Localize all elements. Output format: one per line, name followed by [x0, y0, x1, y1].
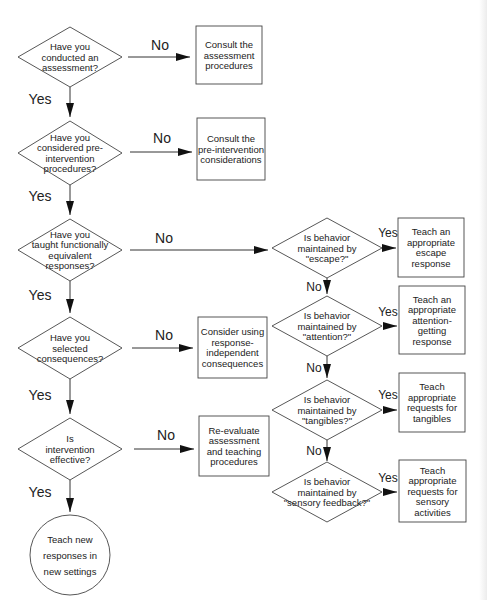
node-text-line: Is — [66, 433, 74, 444]
node-text-line: Teach an — [412, 226, 451, 237]
edge-d2-b2: No — [130, 130, 192, 156]
arrowhead-icon — [178, 148, 192, 156]
edge-e2-e3: No — [306, 356, 331, 378]
edge-label-yes: Yes — [29, 91, 52, 107]
node-text-line: appropriate — [408, 304, 456, 315]
edge-label-no: No — [151, 37, 169, 53]
edge-label-no: No — [157, 427, 175, 443]
edge-d1-d2: Yes — [29, 87, 74, 117]
node-d4: Have youselectedconsequences? — [18, 317, 122, 379]
node-text-line: "tangibles?" — [302, 415, 352, 426]
node-text-line: response- — [211, 337, 253, 348]
node-text-line: attention- — [412, 315, 452, 326]
edge-d3-d4: Yes — [29, 281, 74, 313]
node-e1: Is behaviormaintained by"escape?" — [272, 218, 382, 278]
node-text-line: assessment? — [42, 62, 98, 73]
arrowhead-icon — [66, 201, 74, 215]
node-r1: Teach anappropriateescaperesponse — [398, 218, 464, 277]
edge-label-no: No — [155, 327, 173, 343]
node-text-line: considered pre- — [37, 142, 103, 153]
node-e4: Is behaviormaintained by"sensory feedbac… — [272, 462, 382, 522]
node-text-line: intervention — [45, 153, 94, 164]
arrowhead-icon — [382, 244, 396, 252]
node-text-line: activities — [414, 507, 451, 518]
node-text-line: getting — [418, 325, 447, 336]
node-text-line: sensory — [416, 496, 450, 507]
node-b5: Re-evaluateassessmentand teachingprocedu… — [199, 416, 269, 476]
node-text-line: Teach — [419, 381, 444, 392]
edge-label-yes: Yes — [378, 388, 398, 402]
node-text-line: maintained by — [297, 487, 356, 498]
arrowhead-icon — [383, 488, 397, 496]
edge-d4-d5: Yes — [29, 379, 74, 414]
node-text-line: responses? — [45, 260, 94, 271]
arrowhead-icon — [66, 103, 74, 117]
node-text-line: independent — [206, 347, 259, 358]
node-text-line: taught functionally — [32, 239, 109, 250]
node-text-line: appropriate — [407, 237, 455, 248]
node-d2: Have youconsidered pre-interventionproce… — [18, 121, 122, 185]
arrowhead-icon — [66, 498, 74, 512]
edge-d5-b5: No — [134, 427, 194, 453]
node-r4: Teachappropriaterequests forsensoryactiv… — [399, 460, 466, 522]
node-text-line: assessment — [209, 435, 260, 446]
flowchart: Have youconducted anassessment?Consult t… — [0, 0, 487, 600]
node-text-line: Is behavior — [304, 310, 350, 321]
node-text-line: maintained by — [297, 321, 356, 332]
node-b4: Consider usingresponse-independentconseq… — [198, 317, 267, 378]
edge-label-yes: Yes — [29, 188, 52, 204]
arrowhead-icon — [323, 447, 331, 461]
node-e3: Is behaviormaintained by"tangibles?" — [272, 380, 382, 440]
node-d3: Have youtaught functionallyequivalentres… — [18, 219, 122, 281]
edge-d3-e1: No — [130, 230, 268, 254]
node-d1: Have youconducted anassessment? — [18, 27, 122, 87]
edge-label-yes: Yes — [378, 226, 398, 240]
edge-label-no: No — [306, 280, 322, 294]
node-text-line: "attention?" — [303, 331, 351, 342]
node-text-line: Consult the — [205, 39, 253, 50]
node-text-line: Teach an — [413, 294, 452, 305]
arrowhead-icon — [66, 299, 74, 313]
node-text-line: "escape?" — [306, 253, 349, 264]
node-text-line: new settings — [44, 566, 97, 577]
node-b2: Consult thepre-interventionconsideration… — [197, 118, 265, 180]
node-text-line: conducted an — [41, 52, 98, 63]
node-r3: Teachappropriaterequests fortangibles — [399, 373, 465, 432]
node-text-line: Have you — [50, 132, 90, 143]
edge-e3-e4: No — [306, 440, 331, 461]
node-text-line: "sensory feedback?" — [284, 497, 371, 508]
edge-d2-d3: Yes — [29, 185, 74, 215]
node-text-line: Have you — [50, 332, 90, 343]
arrowhead-icon — [254, 246, 268, 254]
node-text-line: requests for — [407, 402, 457, 413]
node-text-line: Is behavior — [304, 476, 350, 487]
node-text-line: effective? — [50, 454, 91, 465]
edge-label-yes: Yes — [29, 387, 52, 403]
page-edge-shadow — [479, 0, 487, 600]
node-d5: Isinterventioneffective? — [18, 418, 122, 480]
edge-label-no: No — [306, 361, 322, 375]
node-text-line: responses in — [43, 550, 97, 561]
node-text-line: procedures? — [44, 163, 97, 174]
edge-d4-b4: No — [132, 327, 193, 352]
node-r2: Teach anappropriateattention-gettingresp… — [399, 286, 465, 354]
node-text-line: Consult the — [207, 133, 255, 144]
edge-label-no: No — [306, 444, 322, 458]
edge-label-yes: Yes — [378, 305, 398, 319]
arrowhead-icon — [176, 53, 190, 61]
edge-d5-c1: Yes — [29, 480, 74, 512]
node-text-line: appropriate — [408, 392, 456, 403]
arrowhead-icon — [179, 344, 193, 352]
node-text-line: escape — [416, 247, 447, 258]
node-b1: Consult theassessmentprocedures — [196, 26, 262, 84]
node-text-line: appropriate — [408, 475, 456, 486]
node-text-line: requests for — [407, 486, 457, 497]
node-text-line: intervention — [45, 444, 94, 455]
edge-e1-e2: No — [306, 278, 331, 294]
node-text-line: pre-intervention — [198, 144, 264, 155]
node-e2: Is behaviormaintained by"attention?" — [272, 296, 382, 356]
edge-label-no: No — [153, 130, 171, 146]
node-text-line: equivalent — [48, 250, 92, 261]
node-text-line: Teach new — [47, 534, 93, 545]
node-text-line: Have you — [50, 41, 90, 52]
